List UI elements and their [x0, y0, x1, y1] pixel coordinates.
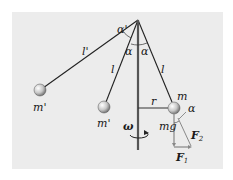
- label-mass-right: m: [177, 90, 187, 103]
- label-f1: F1: [175, 151, 188, 165]
- label-l-prime: l': [82, 45, 89, 58]
- label-mass-left-near: m': [97, 117, 110, 130]
- alpha-leader: [179, 112, 186, 119]
- label-alpha-force: α: [188, 102, 196, 115]
- mass-left-far: [34, 84, 46, 96]
- label-alpha-left: α: [125, 45, 133, 58]
- label-mass-left-far: m': [33, 101, 46, 114]
- pendulum-diagram: α' α α l' l l m' m' m r ω α mg F2 F1: [0, 0, 233, 180]
- mass-left-near: [98, 101, 110, 113]
- label-weight: mg: [159, 120, 176, 133]
- f1-arrowhead: [188, 145, 192, 149]
- label-omega: ω: [123, 120, 134, 133]
- label-l-left: l: [111, 63, 115, 76]
- mass-right: [168, 102, 180, 114]
- label-radius: r: [151, 95, 157, 108]
- label-f2: F2: [190, 129, 204, 143]
- label-l-right: l: [161, 63, 165, 76]
- string-l-right: [138, 20, 172, 102]
- label-alpha-right: α: [141, 45, 149, 58]
- f2-vector: [178, 118, 191, 146]
- label-alpha-prime: α': [117, 23, 127, 36]
